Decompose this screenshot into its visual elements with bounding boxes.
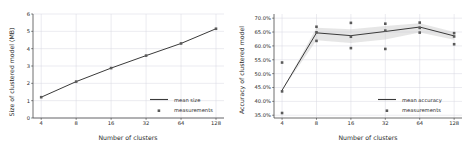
measurement-marker [384,22,387,25]
legend-marker-swatch-measurements [386,109,389,112]
measurement-marker [350,22,353,25]
measurement-marker [418,31,421,34]
measurement-marker [145,54,148,57]
size-chart-background [0,0,234,145]
measurement-marker [350,47,353,50]
xtick-label: 32 [382,120,389,126]
xtick-label: 16 [108,120,115,126]
accuracy-chart-ylabel: Accuracy of clustered model [238,26,246,114]
ytick-label: 70.0% [255,15,272,21]
measurement-marker [315,25,318,28]
ytick-label: 45.0% [255,84,272,90]
measurement-marker [453,32,456,35]
legend-label-mean-size: mean size [174,97,200,103]
ytick-label: 1 [27,98,30,104]
ytick-label: 55.0% [255,57,272,63]
accuracy-chart-xlabel: Number of clusters [338,134,397,141]
measurement-marker [215,27,218,30]
xtick-label: 128 [211,120,221,126]
measurement-marker [315,31,318,34]
size-chart-xlabel: Number of clusters [98,134,157,141]
legend-label-mean-accuracy: mean accuracy [402,97,442,104]
xtick-label: 64 [178,120,185,126]
ytick-label: 0 [27,115,30,121]
legend-marker-swatch-measurements [158,109,161,112]
ytick-label: 50.0% [255,71,272,77]
ytick-label: 5 [27,28,30,34]
measurement-marker [418,27,421,30]
size-chart-svg: 0123456 48163264128 Size of clustered mo… [0,0,234,145]
measurement-marker [180,42,183,45]
size-chart-ylabel: Size of clustered model (MB) [8,28,15,117]
measurement-marker [110,67,113,70]
legend-label-measurements: measurements [402,107,441,113]
measurement-marker [315,40,318,43]
xtick-label: 32 [143,120,150,126]
accuracy-chart-svg: 35.0%40.0%45.0%50.0%55.0%60.0%65.0%70.0%… [234,0,468,145]
measurement-marker [40,96,43,99]
measurement-marker [453,35,456,38]
measurement-marker [453,43,456,46]
ytick-label: 3 [27,63,30,69]
ytick-label: 65.0% [255,29,272,35]
measurement-marker [281,112,284,115]
measurement-marker [281,90,284,93]
legend-label-measurements: measurements [174,107,213,113]
ytick-label: 60.0% [255,43,272,49]
xtick-label: 16 [348,120,355,126]
xtick-label: 8 [75,120,78,126]
measurement-marker [418,21,421,24]
ytick-label: 35.0% [255,112,272,118]
ytick-label: 40.0% [255,98,272,104]
accuracy-chart-panel: 35.0%40.0%45.0%50.0%55.0%60.0%65.0%70.0%… [234,0,468,145]
xtick-label: 128 [449,120,459,126]
xtick-label: 64 [416,120,423,126]
measurement-marker [384,29,387,32]
figure-row: 0123456 48163264128 Size of clustered mo… [0,0,468,145]
measurement-marker [75,80,78,83]
ytick-label: 6 [27,11,30,17]
ytick-label: 2 [27,80,30,86]
measurement-marker [281,61,284,64]
xtick-label: 8 [315,120,318,126]
size-chart-panel: 0123456 48163264128 Size of clustered mo… [0,0,234,145]
measurement-marker [350,35,353,38]
measurement-marker [384,48,387,51]
